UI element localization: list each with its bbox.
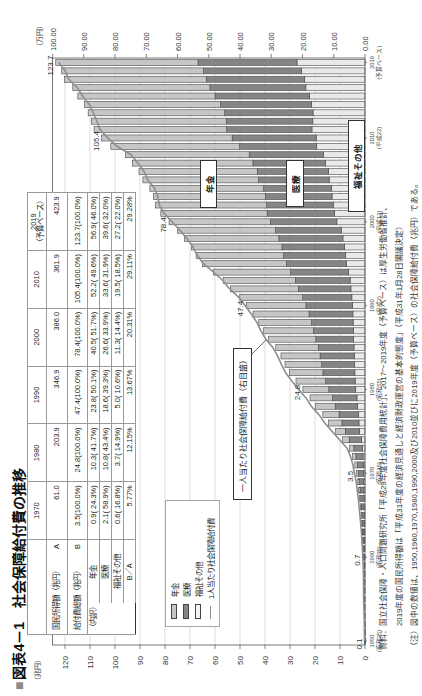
bar-segment-welfare: [345, 244, 365, 250]
bar-segment-pension: [223, 277, 295, 283]
bar-segment-medical: [360, 487, 364, 493]
bar-segment-pension: [203, 261, 287, 267]
table-header-row: 1970 1980 1990 2000 2010 2019 （予算ベース）: [28, 193, 47, 635]
bar-segment-medical: [359, 479, 363, 485]
table-cell: 361.9: [47, 251, 68, 309]
left-axis-label: 50: [236, 655, 245, 664]
bar-segment-pension: [78, 93, 215, 99]
table-cell: 423.9: [47, 193, 68, 251]
row-label: B／A: [124, 540, 136, 604]
table-cell: 29.11%: [124, 251, 136, 309]
bar-segment-medical: [295, 277, 350, 283]
bar-segment-medical: [361, 504, 364, 510]
right-axis-label: 90.00: [80, 32, 89, 51]
bar-segment-pension: [336, 428, 346, 434]
table-cell: 3.7( 14.9%): [112, 424, 124, 482]
bar-segment-medical: [276, 227, 342, 233]
table-header-cell: 2010: [28, 251, 47, 309]
bar-segment-welfare: [353, 328, 365, 334]
bar-segment-pension: [62, 68, 204, 74]
bar-segment-pension: [240, 294, 303, 300]
bar-segment-pension: [263, 328, 313, 334]
segment-label-medical: 医療: [286, 160, 304, 207]
year-label: 2010: [369, 132, 375, 145]
bar-segment-pension: [246, 303, 305, 309]
table-cell: 11.3( 14.4%): [112, 308, 124, 366]
left-axis-label: 10: [336, 655, 345, 664]
bar-segment-medical: [320, 353, 354, 359]
year-label: 2000: [369, 215, 375, 228]
legend-label: 1人当たり社会保障給付費: [205, 518, 216, 599]
bar-segment-welfare: [354, 345, 365, 351]
bar-segment-medical: [306, 303, 353, 309]
legend-swatch-pension: [171, 604, 178, 619]
bar-segment-welfare: [305, 76, 365, 82]
bar-segment-pension: [276, 345, 318, 351]
rotated-figure-page: 0102030405060708090100110120（兆円）0.0010.0…: [0, 0, 422, 696]
bar-segment-pension: [91, 118, 226, 124]
bar-segment-pension: [353, 454, 356, 460]
bar-segment-welfare: [359, 420, 365, 426]
bar-segment-medical: [357, 462, 363, 468]
bar-segment-medical: [316, 336, 354, 342]
bar-segment-welfare: [311, 101, 365, 107]
table-cell: 29.28%: [124, 193, 136, 251]
bar-segment-welfare: [356, 386, 365, 392]
bar-segment-pension: [316, 403, 336, 409]
bar-segment-medical: [215, 93, 309, 99]
bar-segment-pension: [285, 361, 322, 367]
total-annotation: 0.7: [353, 554, 362, 566]
table-header-cell: 1980: [28, 424, 47, 482]
source-note: 資料：国立社会保障・人口問題研究所「平成29年度社会保障費用統計」、2017～2…: [379, 203, 389, 650]
bar-segment-pension: [169, 219, 270, 225]
table-row: 国民所得額（兆円）A 61.0 203.9 346.9 386.0 361.9 …: [47, 193, 68, 635]
bar-segment-medical: [279, 236, 343, 242]
table-cell: 26.6( 33.9%): [100, 308, 112, 366]
right-axis-label: 50.00: [205, 32, 214, 51]
bar-segment-pension: [56, 60, 198, 66]
bar-segment-medical: [323, 370, 355, 376]
bar-segment-welfare: [354, 353, 365, 359]
chart-legend: 年金 医療 福祉その他 1人当たり社会保障給付費: [165, 500, 220, 627]
bar-segment-welfare: [343, 236, 365, 242]
bar-segment-medical: [221, 101, 312, 107]
left-axis-label: 80: [161, 655, 170, 664]
bar-segment-welfare: [302, 68, 366, 74]
bar-segment-medical: [313, 328, 353, 334]
bar-segment-pension: [359, 487, 360, 493]
bar-segment-pension: [349, 445, 353, 451]
bar-segment-welfare: [346, 261, 365, 267]
bar-segment-pension: [185, 236, 279, 242]
bar-segment-pension: [253, 311, 309, 317]
table-cell: 203.9: [47, 424, 68, 482]
year-label: 1990: [369, 299, 375, 312]
bar-segment-medical: [227, 127, 312, 133]
breakdown-group-label: （内訳）: [88, 604, 136, 635]
right-axis-label: 70.00: [142, 32, 151, 51]
bar-segment-welfare: [358, 412, 365, 418]
table-cell: 3.5(100.0%): [68, 482, 88, 540]
bar-segment-welfare: [350, 277, 365, 283]
table-cell: 78.4(100.0%): [68, 308, 88, 366]
row-label: 年金: [88, 540, 100, 604]
bar-segment-welfare: [355, 378, 365, 384]
bar-segment-welfare: [354, 336, 365, 342]
bar-segment-welfare: [297, 60, 365, 66]
left-axis-label: 100: [111, 655, 120, 669]
bar-segment-medical: [267, 210, 334, 216]
bar-segment-welfare: [355, 361, 365, 367]
table-cell: 0.9( 24.3%): [88, 482, 100, 540]
total-annotation: 123.7: [46, 55, 55, 76]
table-row: 医療 2.1( 58.9%) 10.8( 43.4%) 18.6( 39.3%)…: [100, 193, 112, 635]
bar-segment-pension: [269, 336, 316, 342]
table-cell: 105.4(100.0%): [68, 251, 88, 309]
legend-label: 年金: [169, 583, 180, 597]
bar-segment-pension: [310, 395, 332, 401]
callout-leader-line: [250, 340, 266, 356]
bar-segment-medical: [303, 294, 352, 300]
total-annotation: 24.8: [293, 384, 302, 400]
row-label: 国民所得額（兆円）: [53, 567, 61, 630]
bar-segment-pension: [296, 378, 326, 384]
bar-segment-pension: [329, 420, 342, 426]
bar-segment-medical: [329, 386, 356, 392]
